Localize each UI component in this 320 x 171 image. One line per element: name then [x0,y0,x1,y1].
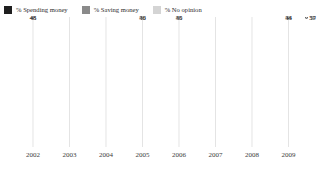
x-tick-label: 2006 [172,151,186,160]
x-tick-label: 2003 [63,151,77,160]
chart-legend: % Spending money % Saving money % No opi… [4,3,316,16]
x-tick-label: 2008 [245,151,259,160]
x-tick-label: 2004 [99,151,113,160]
x-tick-label: 2007 [209,151,223,160]
legend-item-noopinion: % No opinion [153,6,202,14]
legend-label-spending: % Spending money [16,6,68,14]
data-value-label: 4 [311,14,314,21]
chart-data-labels: 4850505359454645443774434 [0,17,320,147]
data-value-label: 3 [287,14,290,21]
x-tick-label: 2005 [136,151,150,160]
legend-label-noopinion: % No opinion [165,6,202,14]
chart-root: % Spending money % Saving money % No opi… [0,0,320,171]
legend-item-spending: % Spending money [4,6,68,14]
legend-item-saving: % Saving money [82,6,139,14]
x-tick-label: 2002 [26,151,40,160]
chart-x-axis: 20022003200420052006200720082009 [0,147,320,171]
x-tick-label: 2009 [282,151,296,160]
data-value-label: 4 [141,14,144,21]
square-swatch-icon [4,6,12,14]
data-value-label: 7 [31,14,34,21]
legend-label-saving: % Saving money [94,6,139,14]
data-value-label: 4 [177,14,180,21]
square-swatch-icon [153,6,161,14]
square-swatch-icon [82,6,90,14]
